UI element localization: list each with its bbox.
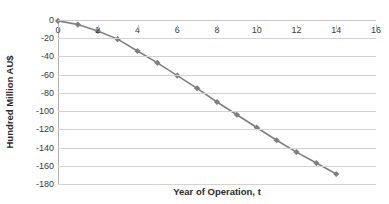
y-tick-label: -120 — [20, 124, 54, 134]
y-tick-label: -140 — [20, 143, 54, 153]
y-axis-title: Hundred Million AU$ — [0, 0, 18, 204]
x-tick-mark — [297, 25, 298, 29]
x-tick-mark — [58, 25, 59, 29]
y-tick-label: -180 — [20, 179, 54, 189]
line-chart: Hundred Million AU$ 0-20-40-60-80-100-12… — [0, 0, 389, 204]
x-tick-mark — [257, 25, 258, 29]
x-axis-title: Year of Operation, t — [58, 186, 376, 197]
gridline-y--140 — [58, 148, 376, 149]
y-tick-label: -60 — [20, 70, 54, 80]
x-axis-tick-labels: 0246810121416 — [58, 25, 376, 39]
gridline-y--40 — [58, 56, 376, 57]
plot-area — [58, 20, 376, 184]
y-tick-label: 0 — [20, 15, 54, 25]
x-tick-mark — [217, 25, 218, 29]
x-tick-mark — [376, 25, 377, 29]
series-line — [58, 20, 376, 184]
x-tick-mark — [177, 25, 178, 29]
gridline-y--160 — [58, 166, 376, 167]
y-tick-label: -100 — [20, 106, 54, 116]
y-tick-label: -80 — [20, 88, 54, 98]
y-tick-label: -160 — [20, 161, 54, 171]
gridline-y--120 — [58, 129, 376, 130]
x-tick-mark — [336, 25, 337, 29]
data-point-marker — [333, 171, 339, 177]
y-tick-label: -40 — [20, 51, 54, 61]
gridline-y--180 — [58, 184, 376, 185]
gridline-y--80 — [58, 93, 376, 94]
gridline-y--100 — [58, 111, 376, 112]
gridline-y-0 — [58, 20, 376, 21]
gridline-y--60 — [58, 75, 376, 76]
x-tick-mark — [138, 25, 139, 29]
x-tick-mark — [98, 25, 99, 29]
